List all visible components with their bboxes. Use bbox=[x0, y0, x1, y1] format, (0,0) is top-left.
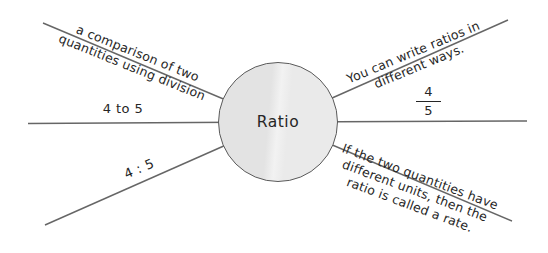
center-node: Ratio bbox=[218, 62, 338, 182]
fraction-denominator: 5 bbox=[416, 102, 441, 119]
label-fraction-form: 4 5 bbox=[416, 84, 441, 119]
center-node-label: Ratio bbox=[257, 113, 299, 131]
fraction-numerator: 4 bbox=[416, 84, 441, 102]
label-word-form: 4 to 5 bbox=[93, 101, 153, 116]
ratio-concept-map: a comparison of two quantities using div… bbox=[0, 0, 548, 253]
